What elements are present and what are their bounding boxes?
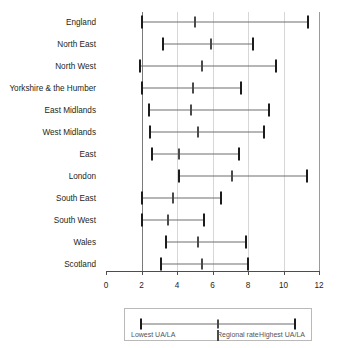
highest-value-cap (307, 16, 309, 29)
range-chart: EnglandNorth EastNorth WestYorkshire & t… (0, 0, 340, 348)
range-line (179, 176, 307, 177)
legend: Lowest UA/LA Regional rate Highest UA/LA (124, 308, 312, 341)
lowest-value-cap (141, 192, 143, 205)
category-label: Wales (74, 238, 96, 247)
x-tick-label: 0 (104, 281, 109, 291)
x-tick-label: 6 (210, 281, 215, 291)
lowest-value-cap (165, 236, 167, 249)
lowest-value-cap (162, 38, 164, 51)
lowest-value-cap (151, 148, 153, 161)
regional-rate-marker (231, 171, 233, 182)
category-label: West Midlands (42, 128, 96, 137)
highest-value-cap (203, 214, 205, 227)
regional-rate-marker (201, 61, 203, 72)
x-tick (177, 271, 178, 275)
highest-value-cap (252, 38, 254, 51)
legend-label-regional: Regional rate (217, 330, 219, 341)
category-label: South West (54, 216, 96, 225)
regional-rate-marker (197, 127, 199, 138)
range-row (106, 103, 319, 117)
legend-key (139, 318, 297, 330)
range-row (106, 235, 319, 249)
lowest-value-cap (141, 16, 143, 29)
regional-rate-marker (201, 259, 203, 270)
range-row (106, 191, 319, 205)
range-line (166, 242, 246, 243)
category-label: North West (55, 62, 96, 71)
lowest-value-cap (149, 126, 151, 139)
lowest-value-cap (141, 82, 143, 95)
range-line (150, 132, 264, 133)
highest-value-cap (306, 170, 308, 183)
legend-high-cap-icon (294, 319, 296, 330)
highest-value-cap (220, 192, 222, 205)
range-row (106, 59, 319, 73)
x-tick (213, 271, 214, 275)
lowest-value-cap (178, 170, 180, 183)
lowest-value-cap (141, 214, 143, 227)
highest-value-cap (263, 126, 265, 139)
regional-rate-marker (167, 215, 169, 226)
legend-label-lowest: Lowest UA/LA (131, 330, 175, 339)
range-row (106, 37, 319, 51)
regional-rate-marker (190, 105, 192, 116)
range-row (106, 213, 319, 227)
category-axis: EnglandNorth EastNorth WestYorkshire & t… (0, 0, 102, 272)
regional-rate-marker (197, 237, 199, 248)
highest-value-cap (247, 258, 249, 271)
x-tick (142, 271, 143, 275)
lowest-value-cap (139, 60, 141, 73)
x-tick-label: 8 (246, 281, 251, 291)
range-row (106, 147, 319, 161)
range-row (106, 81, 319, 95)
category-label: Yorkshire & the Humber (9, 84, 96, 93)
legend-mid-marker-icon (217, 320, 219, 329)
x-tick (284, 271, 285, 275)
highest-value-cap (275, 60, 277, 73)
range-row (106, 125, 319, 139)
category-label: South East (56, 194, 96, 203)
category-label: London (69, 172, 96, 181)
regional-rate-marker (210, 39, 212, 50)
plot-area (106, 12, 319, 271)
range-line (142, 220, 204, 221)
lowest-value-cap (160, 258, 162, 271)
range-row (106, 15, 319, 29)
regional-rate-marker (192, 83, 194, 94)
x-tick (319, 271, 320, 275)
range-line (152, 154, 239, 155)
range-line (149, 110, 270, 111)
x-tick (106, 271, 107, 275)
lowest-value-cap (148, 104, 150, 117)
range-line (163, 44, 254, 45)
regional-rate-marker (172, 193, 174, 204)
x-tick-label: 2 (139, 281, 144, 291)
regional-rate-marker (178, 149, 180, 160)
range-row (106, 169, 319, 183)
category-label: East (80, 150, 96, 159)
highest-value-cap (238, 148, 240, 161)
legend-low-cap-icon (140, 319, 142, 330)
range-line (142, 198, 222, 199)
range-row (106, 257, 319, 271)
range-line (140, 66, 277, 67)
highest-value-cap (268, 104, 270, 117)
highest-value-cap (240, 82, 242, 95)
gridline-12 (319, 12, 320, 271)
regional-rate-marker (194, 17, 196, 28)
category-label: Scotland (64, 260, 96, 269)
x-tick-label: 12 (314, 281, 323, 291)
range-line (161, 264, 248, 265)
category-label: East Midlands (45, 106, 96, 115)
x-tick (248, 271, 249, 275)
highest-value-cap (245, 236, 247, 249)
legend-label-highest: Highest UA/LA (259, 330, 305, 339)
x-tick-label: 4 (175, 281, 180, 291)
category-label: England (66, 18, 96, 27)
range-line (142, 22, 309, 23)
category-label: North East (57, 40, 96, 49)
x-tick-label: 10 (279, 281, 288, 291)
